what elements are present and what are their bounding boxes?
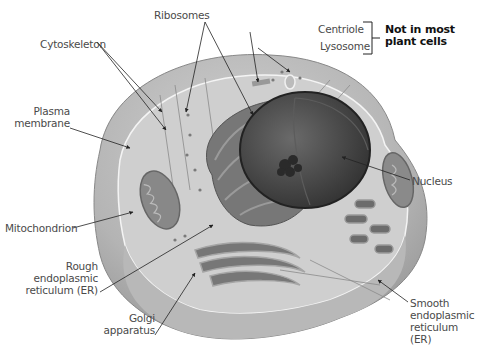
label-cytoskeleton: Cytoskeleton: [40, 38, 106, 50]
label-golgi: Golgi apparatus: [95, 312, 155, 336]
label-nucleus: Nucleus: [412, 175, 452, 187]
label-centriole: Centriole: [318, 23, 364, 35]
cell-illustration: [0, 0, 479, 356]
label-ribosomes: Ribosomes: [154, 9, 210, 21]
label-not-in-plant: Not in most plant cells: [385, 24, 455, 48]
label-rough-er: Rough endoplasmic reticulum (ER): [20, 260, 98, 296]
cell-diagram: Ribosomes Cytoskeleton Centriole Lysosom…: [0, 0, 479, 356]
lysosome: [285, 75, 295, 89]
label-lysosome: Lysosome: [320, 40, 370, 52]
label-plasma-membrane: Plasma membrane: [10, 105, 70, 129]
label-mitochondrion: Mitochondrion: [5, 222, 77, 234]
label-smooth-er: Smooth endoplasmic reticulum (ER): [410, 297, 479, 345]
